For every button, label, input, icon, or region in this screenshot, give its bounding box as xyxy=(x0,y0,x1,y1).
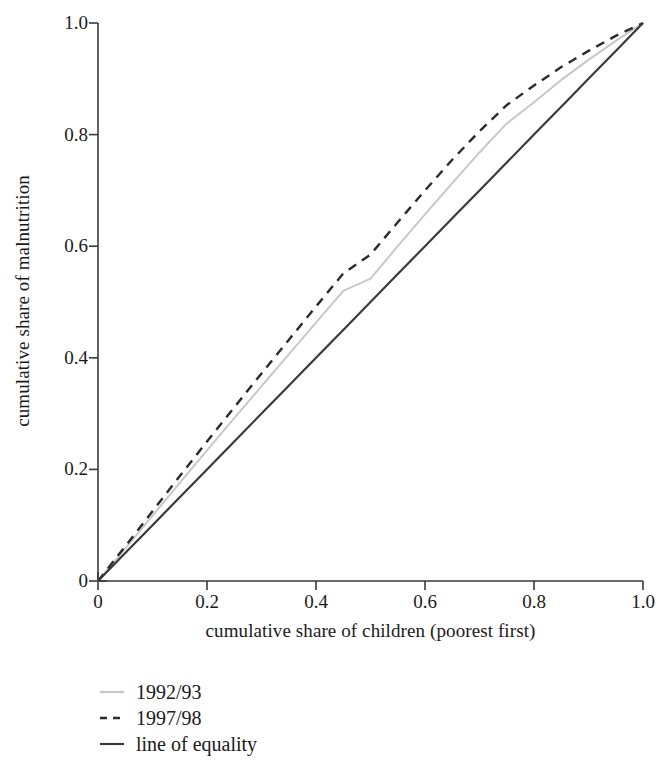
legend-item: 1997/98 xyxy=(96,705,516,731)
legend-label: 1997/98 xyxy=(130,707,202,729)
x-tick-label: 1.0 xyxy=(613,592,659,611)
legend-label: 1992/93 xyxy=(130,681,202,703)
legend-item: line of equality xyxy=(96,731,516,757)
legend-label: line of equality xyxy=(130,733,257,755)
legend-line-swatch-icon xyxy=(96,708,130,728)
data-series xyxy=(98,23,643,581)
x-tick-label: 0.4 xyxy=(286,592,346,611)
x-tick-label: 0.8 xyxy=(504,592,564,611)
x-tick-label: 0.6 xyxy=(395,592,455,611)
legend-line-swatch-icon xyxy=(96,682,130,702)
x-axis-tick-labels: 00.20.40.60.81.0 xyxy=(0,592,653,618)
series-line xyxy=(98,23,643,581)
x-axis-title: cumulative share of children (poorest fi… xyxy=(98,620,643,642)
legend-line-swatch-icon xyxy=(96,734,130,754)
plot-area xyxy=(0,0,653,600)
chart-legend: 1992/931997/98line of equality xyxy=(96,679,516,757)
x-tick-label: 0 xyxy=(68,592,128,611)
legend-item: 1992/93 xyxy=(96,679,516,705)
x-tick-label: 0.2 xyxy=(177,592,237,611)
